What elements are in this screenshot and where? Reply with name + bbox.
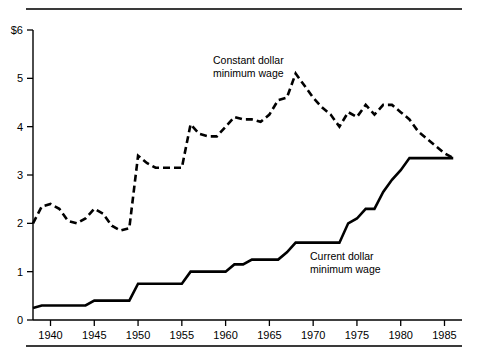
constant-dollar-label-line1: Constant dollar (213, 54, 284, 66)
annotation-layer: Constant dollar minimum wage Current dol… (0, 0, 479, 355)
constant-dollar-label-line2: minimum wage (213, 67, 284, 79)
minimum-wage-chart-figure: 012345$6 1940194519501955196019651970197… (0, 0, 479, 355)
current-dollar-label-line2: minimum wage (310, 263, 381, 275)
current-dollar-label-line1: Current dollar (310, 250, 374, 262)
